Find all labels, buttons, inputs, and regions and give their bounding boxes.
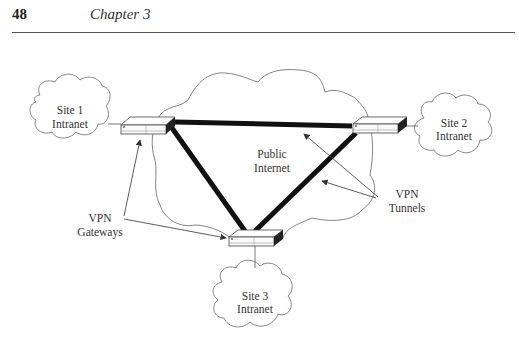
public-internet-label-line1: Public bbox=[257, 148, 286, 160]
vpn-gateways-label-line2: Gateways bbox=[77, 226, 123, 239]
site-3-label-line2: Intranet bbox=[237, 303, 274, 315]
site-3-label-line1: Site 3 bbox=[242, 290, 269, 302]
vpn-gateway-3 bbox=[229, 230, 283, 246]
vpn-gateways-label-line1: VPN bbox=[88, 212, 112, 224]
vpn-gateway-2 bbox=[353, 117, 407, 133]
site-1-label-line2: Intranet bbox=[52, 118, 89, 130]
vpn-tunnels-label-line1: VPN bbox=[395, 188, 419, 200]
site-2-label-line1: Site 2 bbox=[441, 117, 468, 129]
vpn-tunnels-label-line2: Tunnels bbox=[389, 202, 426, 214]
vpn-diagram: Site 1 Intranet Site 2 Intranet Site 3 I… bbox=[0, 0, 519, 354]
site-1-label-line1: Site 1 bbox=[57, 104, 84, 116]
vpn-gateway-1 bbox=[121, 117, 175, 134]
site-2-label-line2: Intranet bbox=[436, 130, 473, 142]
public-internet-label-line2: Internet bbox=[254, 162, 291, 174]
